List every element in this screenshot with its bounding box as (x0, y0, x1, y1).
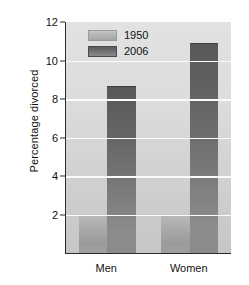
y-tick-label-4: 4 (18, 170, 58, 182)
bar-women-2006 (190, 43, 219, 253)
legend-swatch-2006-icon (88, 46, 117, 57)
gridline-10 (66, 61, 231, 63)
gridline-8 (66, 99, 231, 101)
x-tick-label-men: Men (96, 262, 117, 274)
legend-entry-1950: 1950 (88, 30, 148, 41)
bar-men-1950 (79, 215, 108, 254)
legend-swatch-1950-icon (88, 30, 117, 41)
y-tick-label-2: 2 (18, 209, 58, 221)
legend-label-1950: 1950 (124, 30, 148, 41)
chart-legend: 1950 2006 (88, 30, 148, 57)
x-tick-label-women: Women (170, 262, 208, 274)
x-axis-category-labels: MenWomen (0, 262, 249, 282)
gridline-4 (66, 176, 231, 178)
bar-chart-figure: Percentage divorced 12108642 1950 2006 M… (0, 0, 249, 285)
bar-men-2006 (107, 86, 136, 253)
legend-entry-2006: 2006 (88, 46, 148, 57)
gridline-6 (66, 138, 231, 140)
y-tick-label-6: 6 (18, 132, 58, 144)
y-tick-label-12: 12 (18, 16, 58, 28)
y-tick-label-10: 10 (18, 55, 58, 67)
plot-area: 1950 2006 (65, 22, 231, 254)
bar-women-1950 (161, 215, 190, 254)
gridline-2 (66, 215, 231, 217)
legend-label-2006: 2006 (124, 46, 148, 57)
y-tick-label-8: 8 (18, 93, 58, 105)
